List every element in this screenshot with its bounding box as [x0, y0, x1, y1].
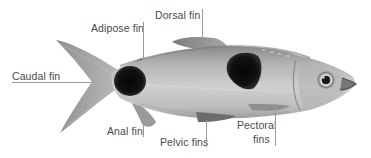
label-pelvic-fins: Pelvic fins — [160, 136, 208, 148]
label-caudal-fin: Caudal fin — [12, 70, 60, 82]
leader-line-pectoral-fins — [275, 104, 276, 146]
leader-line-anal-fin — [143, 108, 144, 137]
caudal-fin-shape — [56, 40, 118, 133]
eye — [317, 71, 335, 89]
leader-line-pelvic-fins — [206, 120, 207, 147]
leader-line-caudal-fin — [12, 82, 92, 83]
leader-line-adipose-fin — [143, 22, 144, 60]
label-pectoral-fins-line1: Pectoral — [237, 119, 276, 131]
fish-anatomy-diagram: Dorsal fin Adipose fin Caudal fin Anal f… — [0, 0, 371, 158]
label-pectoral-fins-line2: fins — [253, 133, 270, 145]
label-dorsal-fin: Dorsal fin — [155, 9, 200, 21]
label-anal-fin: Anal fin — [107, 125, 143, 137]
leader-line-dorsal-fin — [202, 9, 203, 39]
label-adipose-fin: Adipose fin — [91, 22, 144, 34]
caudal-spot — [114, 66, 146, 96]
